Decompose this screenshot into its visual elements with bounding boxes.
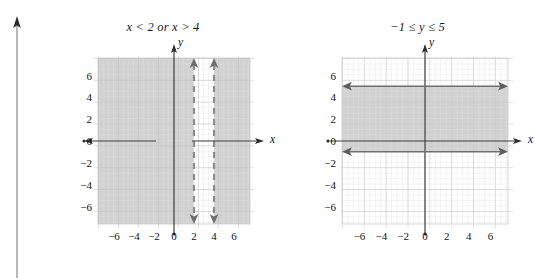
xtick-left-0: −6 (108, 230, 120, 242)
ytick-left-2: 2 (72, 113, 92, 125)
ytick-left-5: −4 (70, 179, 92, 191)
axes-overlay-left (98, 58, 250, 224)
ytick-right-2: 2 (316, 113, 336, 125)
ytick-left-4: −2 (70, 157, 92, 169)
xtick-left-2: −2 (148, 230, 160, 242)
ytick-right-5: −4 (314, 179, 336, 191)
xtick-right-2: −2 (397, 230, 409, 242)
y-axis-right (422, 44, 428, 236)
xtick-right-0: −6 (354, 230, 366, 242)
xtick-right-1: −4 (375, 230, 387, 242)
xtick-right-5: 4 (466, 230, 472, 242)
ytick-right-6: −6 (314, 201, 336, 213)
y-axis-label-right: y (429, 36, 434, 48)
ytick-left-3: 0 (72, 135, 92, 147)
ytick-left-1: 4 (72, 91, 92, 103)
x-axis-label-right: x (528, 133, 533, 145)
x-axis-left (83, 138, 157, 144)
xtick-left-6: 6 (231, 230, 237, 242)
ytick-right-3: 0 (316, 135, 336, 147)
xtick-left-5: 4 (211, 230, 217, 242)
ytick-right-0: 6 (316, 70, 336, 82)
chart-panel-left: x < 2 or x > 4 (58, 0, 268, 278)
xtick-left-3: 0 (171, 230, 177, 242)
x-axis-right (326, 138, 522, 144)
vertical-margin-arrow (10, 16, 24, 278)
y-axis-left (171, 44, 177, 236)
chart-title-right: −1 ≤ y ≤ 5 (300, 20, 535, 35)
axes-overlay-right (342, 58, 508, 224)
chart-title-left: x < 2 or x > 4 (58, 20, 268, 35)
ytick-left-0: 6 (72, 70, 92, 82)
xtick-left-4: 2 (191, 230, 197, 242)
xtick-right-6: 6 (488, 230, 494, 242)
ytick-right-1: 4 (316, 91, 336, 103)
x-axis-label-left: x (270, 133, 275, 145)
xtick-right-3: 0 (422, 230, 428, 242)
chart-panel-right: −1 ≤ y ≤ 5 (300, 0, 535, 278)
plot-area-right: y x 6 4 2 0 −2 −4 −6 −6 −4 −2 0 2 4 6 (342, 58, 508, 224)
ytick-right-4: −2 (314, 157, 336, 169)
xtick-right-4: 2 (444, 230, 450, 242)
plot-area-left: y x 6 4 2 0 −2 −4 −6 −6 −4 −2 0 2 4 6 (98, 58, 250, 224)
xtick-left-1: −4 (128, 230, 140, 242)
y-axis-label-left: y (178, 36, 183, 48)
ytick-left-6: −6 (70, 201, 92, 213)
